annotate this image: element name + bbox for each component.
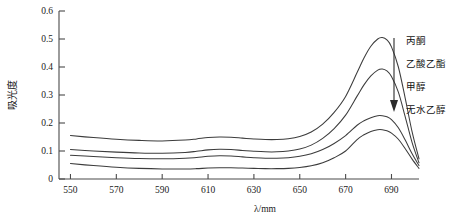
x-tick-label: 590 — [155, 185, 170, 195]
spectra-curves — [70, 38, 419, 169]
x-tick-label: 690 — [384, 185, 399, 195]
x-tick-label: 610 — [201, 185, 216, 195]
absorption-spectra-figure: 00.10.20.30.40.50.6 55057059061063065067… — [0, 0, 460, 224]
legend-item-methanol: 甲醇 — [406, 81, 426, 92]
chart-svg: 00.10.20.30.40.50.6 55057059061063065067… — [0, 0, 460, 224]
y-tick-label: 0.4 — [41, 62, 53, 72]
x-tick-marks — [70, 174, 391, 179]
spectrum-curve-4 — [70, 130, 419, 169]
legend-item-acetone: 丙酮 — [406, 35, 426, 46]
y-tick-marks — [59, 11, 65, 179]
legend-item-anhydrous-ethanol: 无水乙醇 — [406, 104, 446, 115]
x-tick-label: 570 — [109, 185, 124, 195]
spectrum-curve-3 — [70, 116, 419, 166]
x-tick-label: 630 — [247, 185, 262, 195]
legend: 丙酮 乙酸乙酯 甲醇 无水乙醇 — [390, 35, 446, 115]
x-tick-labels: 550570590610630650670690 — [63, 185, 399, 195]
x-axis-title: λ/mm — [254, 204, 277, 214]
x-tick-label: 670 — [338, 185, 353, 195]
y-tick-label: 0.6 — [41, 6, 53, 16]
x-tick-label: 650 — [293, 185, 308, 195]
y-tick-label: 0 — [48, 174, 53, 184]
y-tick-labels: 00.10.20.30.40.50.6 — [41, 6, 53, 184]
arrow-down-icon — [390, 100, 398, 112]
y-tick-label: 0.3 — [41, 90, 53, 100]
spectrum-curve-2 — [70, 69, 419, 163]
y-axis: 00.10.20.30.40.50.6 — [41, 6, 65, 184]
legend-item-ethyl-acetate: 乙酸乙酯 — [406, 58, 446, 69]
y-tick-label: 0.5 — [41, 34, 53, 44]
y-tick-label: 0.2 — [41, 118, 53, 128]
x-axis: 550570590610630650670690 — [59, 174, 419, 195]
y-axis-title: 吸光度 — [6, 80, 18, 110]
y-tick-label: 0.1 — [41, 146, 53, 156]
x-tick-label: 550 — [63, 185, 78, 195]
spectrum-curve-1 — [70, 38, 419, 159]
